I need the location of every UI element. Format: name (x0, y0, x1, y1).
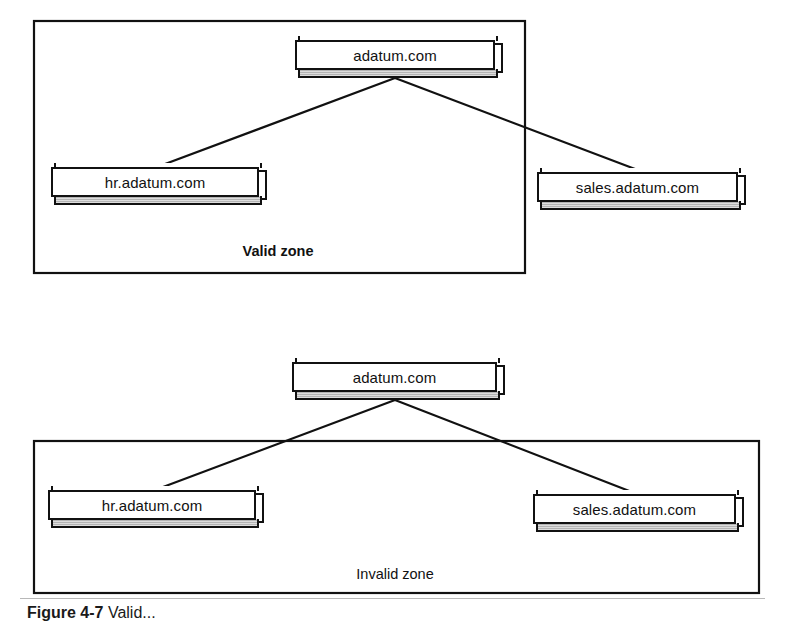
domain-node-invalid-hr[interactable]: hr.adatum.com (48, 490, 256, 520)
page-scan-rule (20, 598, 765, 599)
node-bottom-face (536, 523, 739, 532)
node-bottom-face (54, 196, 262, 205)
connector-valid-root-to-sales (395, 78, 643, 172)
node-bottom-face (298, 69, 498, 78)
zone-caption-invalid: Invalid zone (356, 566, 433, 582)
connector-invalid-root-to-sales (395, 400, 637, 494)
domain-node-valid-hr[interactable]: hr.adatum.com (51, 167, 259, 197)
node-front-face: adatum.com (295, 40, 495, 70)
node-bottom-face (295, 391, 500, 400)
domain-node-invalid-root[interactable]: adatum.com (292, 362, 497, 392)
node-front-face: sales.adatum.com (537, 172, 738, 202)
node-front-face: hr.adatum.com (48, 490, 256, 520)
domain-name-label: adatum.com (353, 48, 437, 63)
dns-zone-figure: adatum.comhr.adatum.comsales.adatum.comV… (0, 0, 785, 621)
node-bottom-face (51, 519, 259, 528)
connector-valid-root-to-hr (157, 78, 395, 167)
node-front-face: adatum.com (292, 362, 497, 392)
domain-name-label: hr.adatum.com (102, 498, 203, 513)
domain-name-label: sales.adatum.com (576, 180, 699, 195)
figure-caption: Figure 4-7 Valid... (27, 604, 547, 621)
node-front-face: hr.adatum.com (51, 167, 259, 197)
domain-name-label: sales.adatum.com (573, 502, 696, 517)
zone-caption-valid: Valid zone (243, 243, 314, 259)
figure-caption-text: Valid... (108, 604, 156, 621)
figure-caption-number: Figure 4-7 (27, 604, 103, 621)
domain-node-valid-sales[interactable]: sales.adatum.com (537, 172, 738, 202)
domain-name-label: hr.adatum.com (105, 175, 206, 190)
domain-node-valid-root[interactable]: adatum.com (295, 40, 495, 70)
domain-node-invalid-sales[interactable]: sales.adatum.com (533, 494, 736, 524)
connector-invalid-root-to-hr (155, 400, 395, 490)
node-bottom-face (540, 201, 741, 210)
domain-name-label: adatum.com (353, 370, 437, 385)
node-front-face: sales.adatum.com (533, 494, 736, 524)
